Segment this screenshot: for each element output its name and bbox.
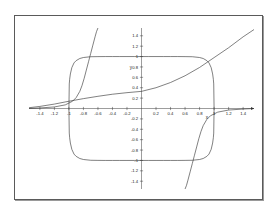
x-tick-label: 0.8 xyxy=(197,111,203,116)
x-tick-label: 0.2 xyxy=(153,111,159,116)
x-tick-label: 1.2 xyxy=(226,111,232,116)
plot-svg: -1.4-1.2-1-0.8-0.6-0.4-0.20.20.40.60.811… xyxy=(15,16,262,199)
x-tick-label: 0.4 xyxy=(168,111,174,116)
x-tick-label: -1.2 xyxy=(51,111,59,116)
x-tick-label: -1.4 xyxy=(36,111,44,116)
figure-canvas: -1.4-1.2-1-0.8-0.6-0.4-0.20.20.40.60.811… xyxy=(0,0,277,214)
curve-steep-curve-lower-right xyxy=(185,109,254,190)
curve-steep-curve-upper-left xyxy=(29,28,98,109)
y-tick-label: -0.2 xyxy=(131,116,139,121)
y-tick-label: -1.4 xyxy=(131,179,139,184)
y-tick-label: 0.8 xyxy=(132,65,138,70)
y-tick-label: -0.4 xyxy=(131,127,139,132)
y-tick-label: -0.6 xyxy=(131,137,139,142)
y-tick-label: -1.2 xyxy=(131,168,139,173)
x-tick-label: -0.6 xyxy=(94,111,102,116)
y-tick-label: -0.8 xyxy=(131,148,139,153)
y-tick-label: 1.4 xyxy=(132,33,138,38)
y-tick-label: 0.4 xyxy=(132,85,138,90)
plot-frame: -1.4-1.2-1-0.8-0.6-0.4-0.20.20.40.60.811… xyxy=(14,15,263,200)
x-tick-label: -0.8 xyxy=(80,111,88,116)
x-tick-label: 0.6 xyxy=(182,111,188,116)
x-tick-label: -0.4 xyxy=(109,111,117,116)
x-tick-label: -0.2 xyxy=(123,111,131,116)
y-tick-label: 0.6 xyxy=(132,75,138,80)
y-tick-label: 0.2 xyxy=(132,96,138,101)
x-tick-label: 1.4 xyxy=(240,111,246,116)
y-tick-label: 1.2 xyxy=(132,44,138,49)
